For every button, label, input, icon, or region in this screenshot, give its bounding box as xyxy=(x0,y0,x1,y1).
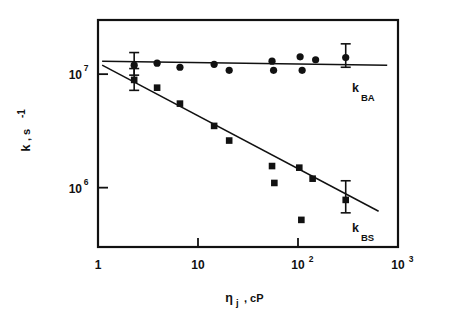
y-axis-label-exponent: -1 xyxy=(16,109,27,118)
data-point-k_BS xyxy=(298,217,305,224)
y-tick-exponent-7: 7 xyxy=(84,63,89,73)
y-tick-label-107: 10 xyxy=(69,68,83,82)
canvas-background xyxy=(0,0,455,326)
data-point-k_BS xyxy=(131,77,138,84)
data-point-k_BA xyxy=(211,61,218,68)
data-point-k_BS xyxy=(211,123,218,130)
x-axis-label-symbol: η xyxy=(225,291,233,305)
series-label-subscript-k_BA: BA xyxy=(361,92,375,103)
data-point-k_BA xyxy=(312,56,319,63)
x-axis-label-unit: , cP xyxy=(244,292,264,304)
y-axis-label-symbol: k xyxy=(19,144,33,151)
y-axis-label-unit: , s xyxy=(20,129,32,141)
y-tick-label-106: 10 xyxy=(69,182,83,196)
series-label-subscript-k_BS: BS xyxy=(361,232,374,243)
data-point-k_BS xyxy=(154,84,161,91)
data-point-k_BS xyxy=(226,137,233,144)
x-tick-label-10: 10 xyxy=(191,258,205,272)
data-point-k_BA xyxy=(268,58,275,65)
data-point-k_BA xyxy=(226,67,233,74)
data-point-k_BS xyxy=(177,100,184,107)
x-tick-label-103: 10 xyxy=(391,258,405,272)
data-point-k_BS xyxy=(271,180,278,187)
data-point-k_BA xyxy=(342,54,349,61)
chart-figure: 110102103 107106 kBAkBS ηj, cPk, s-1 xyxy=(0,0,455,326)
x-tick-exponent-2: 2 xyxy=(309,254,314,264)
data-point-k_BS xyxy=(296,164,303,171)
data-point-k_BA xyxy=(176,64,183,71)
data-point-k_BS xyxy=(342,197,349,204)
data-point-k_BA xyxy=(297,53,304,60)
x-tick-label-1: 1 xyxy=(95,258,102,272)
x-tick-label-102: 10 xyxy=(291,258,305,272)
data-point-k_BS xyxy=(269,163,276,170)
x-axis-label-subscript: j xyxy=(235,297,239,308)
x-tick-exponent-3: 3 xyxy=(409,254,414,264)
scatter-plot: 110102103 107106 kBAkBS ηj, cPk, s-1 xyxy=(0,0,455,326)
data-point-k_BA xyxy=(299,67,306,74)
y-tick-exponent-6: 6 xyxy=(84,177,89,187)
series-label-symbol-k_BA: k xyxy=(352,81,359,95)
series-label-symbol-k_BS: k xyxy=(352,221,359,235)
data-point-k_BA xyxy=(154,60,161,67)
data-point-k_BS xyxy=(309,175,316,182)
data-point-k_BA xyxy=(270,67,277,74)
data-point-k_BA xyxy=(131,62,138,69)
